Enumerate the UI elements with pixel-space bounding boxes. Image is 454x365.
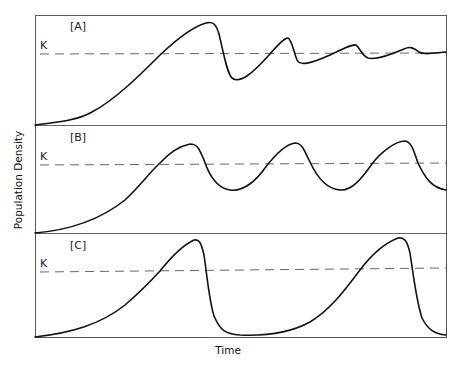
- panel-c-curve: [35, 238, 446, 337]
- panel-b-label: [B]: [70, 131, 86, 144]
- panel-c-k-line: [40, 268, 446, 272]
- panel-a-label: [A]: [70, 20, 86, 33]
- panel-a-k-line: [40, 53, 446, 54]
- panel-b-k-line: [40, 163, 446, 165]
- y-axis-label: Population Density: [12, 131, 24, 229]
- panel-a: [A] K: [35, 20, 446, 125]
- population-dynamics-chart: [A] K [B] K [C] K Time Population Densit…: [0, 0, 454, 365]
- chart-frame: [36, 16, 447, 338]
- panel-c: [C] K: [35, 238, 446, 337]
- panel-c-label: [C]: [70, 239, 86, 252]
- panel-a-k-label: K: [40, 39, 48, 52]
- panel-a-curve: [35, 22, 446, 125]
- panel-c-k-label: K: [40, 257, 48, 270]
- x-axis-label: Time: [214, 344, 241, 356]
- panel-b-k-label: K: [40, 150, 48, 163]
- panel-b-curve: [35, 141, 446, 233]
- panel-b: [B] K: [35, 131, 446, 233]
